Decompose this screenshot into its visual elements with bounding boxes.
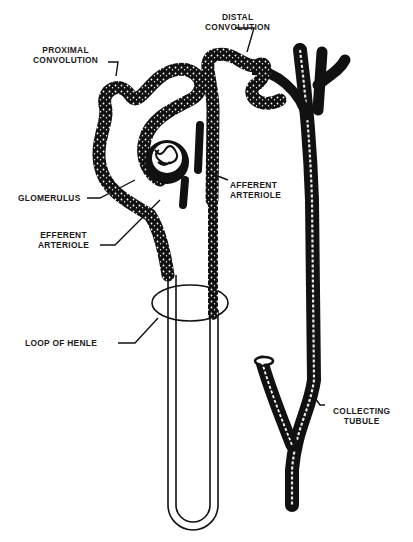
distal-convolution xyxy=(208,54,280,200)
label-efferent-arteriole: EFFERENT ARTERIOLE xyxy=(38,230,89,250)
label-afferent-arteriole: AFFERENT ARTERIOLE xyxy=(230,180,281,200)
collecting-tubule xyxy=(252,50,345,505)
label-collecting-tubule: COLLECTING TUBULE xyxy=(333,406,390,426)
label-proximal-convolution: PROXIMAL CONVOLUTION xyxy=(33,45,98,65)
label-glomerulus: GLOMERULUS xyxy=(18,193,81,203)
glomerulus xyxy=(145,125,200,205)
label-distal-convolution: DISTAL CONVOLUTION xyxy=(205,12,270,32)
nephron-diagram xyxy=(0,0,413,542)
label-loop-of-henle: LOOP OF HENLE xyxy=(25,338,97,348)
